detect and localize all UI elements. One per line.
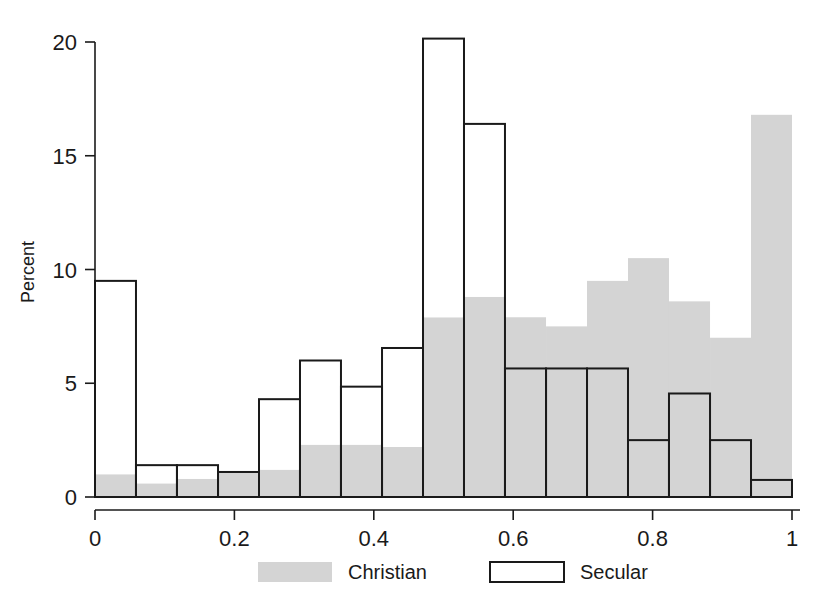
y-tick-label: 10 [53,258,77,283]
christian-bar [136,483,177,497]
secular-bar-interior [260,400,299,469]
christian-bar [300,445,341,497]
x-tick-label: 0.4 [359,526,390,551]
christian-bar [341,445,382,497]
y-tick-label: 5 [65,371,77,396]
christian-bar [464,297,505,497]
y-tick-label: 20 [53,30,77,55]
christian-bar [218,472,259,497]
secular-bar-interior [424,40,463,317]
legend-label-christian: Christian [348,561,427,583]
secular-bar-interior [301,362,340,445]
x-tick-label: 0.8 [637,526,668,551]
christian-bar [587,281,628,497]
christian-bar [259,470,300,497]
christian-bar [751,115,792,497]
secular-bar-interior [96,282,135,474]
christian-bar [95,474,136,497]
christian-bar [382,447,423,497]
christian-bar [546,326,587,497]
christian-bar [423,317,464,497]
secular-bar-interior [178,466,217,478]
secular-bar-interior [465,125,504,297]
christian-bar [177,479,218,497]
legend-label-secular: Secular [580,561,648,583]
legend-swatch-secular [490,562,564,582]
y-tick-label: 15 [53,144,77,169]
y-tick-label: 0 [65,485,77,510]
christian-bar [628,258,669,497]
christian-bar [505,317,546,497]
x-tick-label: 0 [89,526,101,551]
secular-bar-interior [137,466,176,483]
secular-bar-interior [383,349,422,447]
x-tick-label: 0.6 [498,526,529,551]
christian-bar [710,338,751,497]
christian-bar [669,301,710,497]
histogram-figure: 05101520 00.20.40.60.81 Percent Christia… [0,0,829,613]
x-tick-label: 0.2 [219,526,250,551]
x-tick-label: 1 [786,526,798,551]
y-axis-title: Percent [18,241,38,303]
secular-bar-interior [342,388,381,445]
chart-canvas: 05101520 00.20.40.60.81 Percent Christia… [0,0,829,613]
legend-swatch-christian [258,562,332,582]
